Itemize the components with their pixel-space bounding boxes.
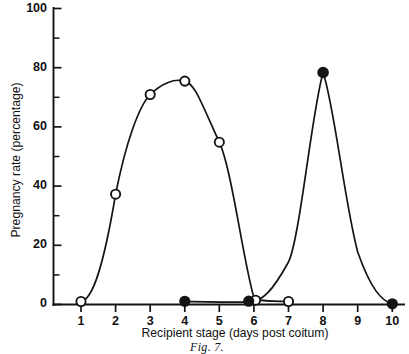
y-tick-label-100: 100 (26, 1, 47, 15)
y-tick-label-20: 20 (33, 237, 47, 251)
x-tick-label-1: 1 (78, 314, 85, 328)
open-series-markers (76, 77, 293, 307)
x-tick-label-10: 10 (385, 314, 399, 328)
data-point-open-day7 (284, 297, 293, 306)
data-point-open-day5 (215, 138, 224, 147)
pregnancy-rate-chart: 100 80 60 40 20 0 1 2 3 4 5 6 7 8 9 10 (0, 0, 409, 354)
closed-series-markers (180, 68, 397, 309)
figure-caption: Fig. 7. (189, 340, 224, 354)
data-point-open-day3 (146, 90, 155, 99)
y-tick-label-60: 60 (33, 119, 47, 133)
y-tick-label-80: 80 (33, 60, 47, 74)
data-point-open-day1 (76, 297, 85, 306)
data-point-closed-day4 (180, 297, 190, 307)
y-tick-label-40: 40 (33, 178, 47, 192)
closed-series-curve (185, 73, 392, 305)
x-tick-label-2: 2 (112, 314, 119, 328)
data-point-closed-day8 (318, 68, 328, 78)
x-tick-label-9: 9 (354, 314, 361, 328)
figure-panel: 100 80 60 40 20 0 1 2 3 4 5 6 7 8 9 10 (0, 0, 409, 354)
data-point-open-day2 (111, 190, 120, 199)
data-point-closed-day10 (388, 299, 398, 309)
data-point-open-day4 (180, 77, 189, 86)
y-axis-title: Pregnancy rate (percentage) (9, 82, 23, 237)
x-axis-title: Recipient stage (days post coitum) (142, 326, 329, 340)
y-tick-label-0: 0 (40, 296, 47, 310)
x-axis-ticks (81, 305, 392, 313)
data-point-closed-day6 (244, 296, 254, 306)
